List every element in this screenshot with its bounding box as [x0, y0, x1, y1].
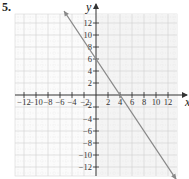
x-tick-label: 12: [164, 97, 173, 107]
y-tick-label: −6: [83, 126, 92, 136]
x-tick-label: −10: [29, 97, 42, 107]
coordinate-plane: xy−12−10−8−6−4−22468101212108642−2−4−6−8…: [0, 0, 189, 179]
y-tick-label: 6: [88, 54, 92, 64]
y-tick-label: −8: [83, 138, 92, 148]
y-tick-label: −2: [83, 100, 92, 110]
y-axis-label: y: [85, 0, 92, 14]
x-tick-label: −8: [43, 97, 52, 107]
x-tick-label: −4: [67, 97, 77, 107]
x-tick-label: 10: [152, 97, 161, 107]
y-tick-label: 12: [84, 18, 93, 28]
y-tick-label: 10: [84, 30, 93, 40]
x-tick-label: −6: [55, 97, 64, 107]
x-axis-label: x: [184, 95, 189, 109]
x-tick-label: 2: [106, 97, 110, 107]
y-tick-label: −10: [79, 150, 92, 160]
y-tick-label: −4: [83, 114, 93, 124]
y-tick-label: −12: [79, 162, 92, 172]
y-tick-label: 2: [88, 78, 92, 88]
x-tick-label: 6: [130, 97, 134, 107]
x-tick-label: 8: [142, 97, 146, 107]
